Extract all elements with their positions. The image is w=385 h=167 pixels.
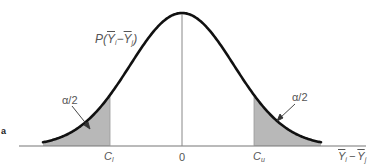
tick-lower-sub: l	[112, 156, 114, 163]
x-axis-label-yj: Y	[357, 150, 364, 162]
curve-label-suffix: )	[133, 32, 137, 46]
upper-tail-shaded-region	[254, 95, 321, 146]
tick-zero: 0	[179, 152, 185, 163]
curve-label-minus: −	[117, 32, 124, 46]
tick-upper-critical: Cu	[253, 151, 265, 163]
tick-upper-sub: u	[261, 156, 265, 163]
curve-label-prefix: P(	[95, 32, 107, 46]
normal-distribution-figure: P(Yi−Yj) α/2 α/2 Cl 0 Cu Yi−Yj a	[0, 0, 385, 167]
tick-upper-main: C	[253, 150, 261, 162]
curve-label: P(Yi−Yj)	[95, 33, 137, 46]
alpha-right-arrow	[277, 104, 295, 121]
alpha-left-label: α/2	[62, 95, 78, 106]
x-axis-label-sub-j: j	[365, 156, 367, 163]
x-axis-label-minus: −	[349, 150, 355, 162]
x-axis-label-sub-i: i	[345, 156, 347, 163]
x-axis-label: Yi−Yj	[338, 151, 366, 163]
distribution-plot	[0, 0, 385, 167]
tick-lower-critical: Cl	[104, 151, 114, 163]
alpha-right-label: α/2	[292, 92, 308, 103]
tick-lower-main: C	[104, 150, 112, 162]
stray-mark: a	[1, 127, 6, 136]
curve-label-yi: Y	[107, 32, 115, 46]
curve-label-yj: Y	[124, 32, 132, 46]
